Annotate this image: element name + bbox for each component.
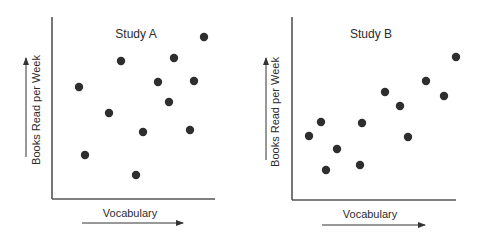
scatter-plot-study-a: Study A Vocabulary Books Read per Week — [26, 17, 215, 223]
data-point — [165, 98, 173, 106]
data-point — [358, 119, 366, 127]
data-point — [305, 132, 313, 140]
data-point — [139, 128, 147, 136]
data-point — [422, 77, 430, 85]
data-point — [154, 78, 162, 86]
y-axis-label: Books Read per Week — [269, 57, 281, 167]
plot-title: Study A — [115, 27, 156, 41]
data-point — [317, 118, 325, 126]
data-point — [440, 92, 448, 100]
data-point — [186, 126, 194, 134]
data-point — [452, 53, 460, 61]
data-point — [170, 54, 178, 62]
data-point — [396, 102, 404, 110]
data-point — [404, 133, 412, 141]
data-point — [333, 145, 341, 153]
data-point — [117, 57, 125, 65]
y-axis-label: Books Read per Week — [30, 55, 42, 165]
scatter-plots-figure: Study A Vocabulary Books Read per Week S… — [0, 0, 489, 240]
data-point — [81, 151, 89, 159]
data-point — [381, 88, 389, 96]
data-point — [132, 171, 140, 179]
data-points — [305, 53, 460, 174]
data-point — [75, 83, 83, 91]
x-axis-label: Vocabulary — [343, 208, 398, 220]
data-point — [200, 33, 208, 41]
scatter-plot-study-b: Study B Vocabulary Books Read per Week — [266, 17, 460, 225]
data-point — [105, 109, 113, 117]
data-points — [75, 33, 208, 179]
figure: Study A Vocabulary Books Read per Week S… — [0, 0, 489, 240]
data-point — [356, 161, 364, 169]
x-axis-label: Vocabulary — [103, 207, 158, 219]
plot-title: Study B — [350, 27, 392, 41]
data-point — [322, 166, 330, 174]
data-point — [190, 77, 198, 85]
